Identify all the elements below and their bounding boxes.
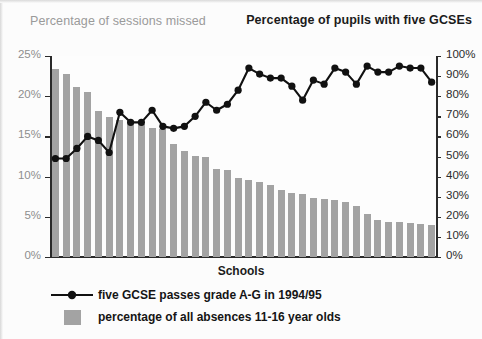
line-marker <box>288 83 295 90</box>
legend-line-marker-icon <box>46 288 98 302</box>
left-tick-label: 25% <box>18 48 41 60</box>
line-marker <box>159 123 166 130</box>
right-tick-label: 100% <box>446 48 475 60</box>
top-page-edge <box>0 0 482 3</box>
chart-canvas: Percentage of sessions missed Percentage… <box>0 0 482 339</box>
right-tick-label: 90% <box>446 68 469 80</box>
left-tick-label: 20% <box>18 88 41 100</box>
line-marker <box>321 81 328 88</box>
legend-bar-swatch-icon <box>46 310 98 325</box>
right-tick-label: 50% <box>446 149 469 161</box>
line-marker <box>374 68 381 75</box>
right-tick-label: 0% <box>446 249 463 261</box>
line-marker <box>353 81 360 88</box>
line-marker <box>73 145 80 152</box>
right-tick-label: 60% <box>446 128 469 140</box>
left-tick-label: 5% <box>24 209 41 221</box>
line-marker <box>63 155 70 162</box>
line-marker <box>278 75 285 82</box>
right-tick-label: 40% <box>446 169 469 181</box>
line-series <box>50 56 437 257</box>
line-marker <box>127 119 134 126</box>
line-marker <box>106 149 113 156</box>
line-marker <box>52 155 59 162</box>
legend-item-line: five GCSE passes grade A-G in 1994/95 <box>46 284 341 306</box>
line-marker <box>385 68 392 75</box>
right-axis-title: Percentage of pupils with five GCSEs <box>246 13 472 27</box>
legend-label-bar: percentage of all absences 11-16 year ol… <box>98 310 341 324</box>
legend-label-line: five GCSE passes grade A-G in 1994/95 <box>98 288 322 302</box>
right-tick-label: 70% <box>446 108 469 120</box>
legend: five GCSE passes grade A-G in 1994/95 pe… <box>46 284 341 328</box>
right-tick <box>436 257 441 258</box>
line-marker <box>342 68 349 75</box>
line-marker <box>267 75 274 82</box>
plot-area <box>50 56 437 257</box>
line-path <box>55 66 431 158</box>
line-marker <box>407 64 414 71</box>
line-marker <box>245 64 252 71</box>
line-marker <box>331 64 338 71</box>
line-marker <box>299 97 306 104</box>
x-axis-title: Schools <box>0 264 482 278</box>
right-tick-label: 80% <box>446 88 469 100</box>
line-marker <box>213 107 220 114</box>
line-marker <box>95 137 102 144</box>
left-tick-label: 15% <box>18 128 41 140</box>
line-marker <box>192 113 199 120</box>
left-page-edge <box>0 0 3 339</box>
left-tick-label: 10% <box>18 169 41 181</box>
left-tick-label: 0% <box>24 249 41 261</box>
line-marker <box>428 79 435 86</box>
line-marker <box>417 64 424 71</box>
right-tick-label: 30% <box>446 189 469 201</box>
line-marker <box>364 62 371 69</box>
line-marker <box>256 70 263 77</box>
line-marker <box>138 119 145 126</box>
left-axis-title: Percentage of sessions missed <box>30 14 206 28</box>
line-marker <box>116 109 123 116</box>
line-marker <box>224 101 231 108</box>
legend-item-bar: percentage of all absences 11-16 year ol… <box>46 306 341 328</box>
line-marker <box>235 87 242 94</box>
line-marker <box>396 62 403 69</box>
line-marker <box>181 123 188 130</box>
line-marker <box>310 77 317 84</box>
right-tick-label: 20% <box>446 209 469 221</box>
line-marker <box>202 99 209 106</box>
line-marker <box>149 107 156 114</box>
left-tick <box>45 257 50 258</box>
right-tick-label: 10% <box>446 229 469 241</box>
line-marker <box>170 125 177 132</box>
line-marker <box>84 133 91 140</box>
